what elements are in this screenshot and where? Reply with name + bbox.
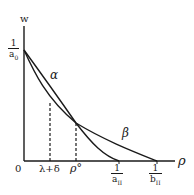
curve-beta-label: β <box>122 127 129 139</box>
tick-label-b-II: 1 bII <box>149 164 162 186</box>
tick-label-lambda-delta: λ+δ <box>39 164 60 174</box>
tick-a-II-den-sub: II <box>117 179 122 186</box>
tick-label-a-II: 1 aII <box>111 164 123 186</box>
origin-label: 0 <box>15 164 21 174</box>
tick-b-II-numerator: 1 <box>151 164 159 173</box>
y-intercept-label: 1 a0 <box>8 39 19 61</box>
tick-label-rho-0: ρ° <box>70 163 82 174</box>
tick-b-II-den-sub: II <box>156 179 161 186</box>
tick-b-II-denominator: bII <box>149 173 162 186</box>
y-axis-label: w <box>20 14 29 24</box>
x-axis-label: ρ <box>178 154 186 167</box>
curve-beta <box>24 50 157 161</box>
tick-a-II-numerator: 1 <box>113 164 121 173</box>
tick-a-II-denominator: aII <box>111 173 123 186</box>
y-intercept-numerator: 1 <box>10 39 18 48</box>
y-intercept-den-sub: 0 <box>14 54 18 61</box>
curve-alpha-label: α <box>50 69 58 81</box>
y-intercept-denominator: a0 <box>8 48 19 61</box>
diagram-canvas <box>0 0 194 195</box>
curve-alpha <box>24 50 119 161</box>
